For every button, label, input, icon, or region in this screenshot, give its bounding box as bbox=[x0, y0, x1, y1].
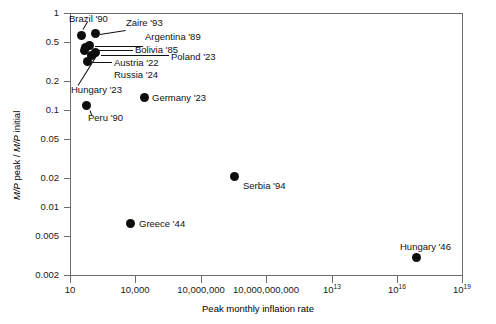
point-label-serbia: Serbia '94 bbox=[243, 180, 285, 191]
data-point-hungary46 bbox=[412, 253, 421, 262]
x-tick bbox=[135, 276, 136, 283]
x-tick-label: 1016 bbox=[367, 285, 427, 295]
y-tick bbox=[64, 42, 71, 43]
y-tick-label: 0.005 bbox=[14, 231, 59, 241]
point-label-zaire: Zaire '93 bbox=[126, 17, 163, 28]
data-point-austria bbox=[83, 57, 92, 66]
scatter-chart: 1 0.5 0.2 0.1 0.05 0.02 0.01 0.005 0.002… bbox=[0, 0, 496, 324]
y-tick-label: 0.002 bbox=[14, 270, 59, 280]
y-tick-label: 0.5 bbox=[14, 37, 59, 47]
leader-line-bolivia bbox=[95, 50, 133, 51]
data-point-zaire bbox=[91, 29, 100, 38]
y-axis-title-part2: peak / bbox=[11, 152, 22, 183]
axis-top bbox=[70, 13, 463, 14]
x-axis-title: Peak monthly inflation rate bbox=[10, 303, 496, 314]
y-axis-title-part4: initial bbox=[11, 111, 22, 135]
y-tick bbox=[64, 81, 71, 82]
y-tick bbox=[64, 207, 71, 208]
x-tick-label: 10 bbox=[40, 285, 100, 295]
y-tick-label: 1 bbox=[14, 8, 59, 18]
y-axis-title-part1: M/P bbox=[11, 183, 22, 200]
axis-right bbox=[462, 13, 463, 276]
x-tick-mantissa: 10 bbox=[453, 284, 464, 295]
x-tick bbox=[70, 276, 71, 283]
data-point-greece bbox=[126, 219, 135, 228]
data-point-brazil bbox=[77, 31, 86, 40]
data-point-germany bbox=[140, 93, 149, 102]
y-tick-label: 0.2 bbox=[14, 76, 59, 86]
data-point-serbia bbox=[230, 172, 239, 181]
point-label-hungary46: Hungary '46 bbox=[400, 241, 451, 252]
y-axis-title-part3: M/P bbox=[11, 135, 22, 152]
y-tick bbox=[64, 139, 71, 140]
x-tick bbox=[201, 276, 202, 283]
y-tick-label: 0.01 bbox=[14, 202, 59, 212]
x-tick-label: 1013 bbox=[302, 285, 362, 295]
y-tick bbox=[64, 178, 71, 179]
x-tick-mantissa: 10 bbox=[323, 284, 334, 295]
x-tick-exponent: 19 bbox=[464, 283, 471, 290]
point-label-hungary23: Hungary '23 bbox=[71, 84, 122, 95]
point-label-austria: Austria '22 bbox=[114, 57, 159, 68]
x-tick-mantissa: 10 bbox=[388, 284, 399, 295]
y-tick bbox=[64, 236, 71, 237]
x-tick-exponent: 13 bbox=[334, 283, 341, 290]
data-point-peru bbox=[82, 101, 91, 110]
point-label-greece: Greece '44 bbox=[139, 218, 185, 229]
point-label-brazil: Brazil '90 bbox=[69, 13, 108, 24]
leader-line-zaire bbox=[100, 30, 126, 35]
point-label-germany: Germany '23 bbox=[152, 92, 206, 103]
leader-line-poland bbox=[101, 55, 169, 56]
x-tick bbox=[266, 276, 267, 283]
x-tick-label: 1019 bbox=[432, 285, 492, 295]
point-label-peru: Peru '90 bbox=[88, 112, 123, 123]
point-label-russia: Russia '24 bbox=[114, 69, 158, 80]
point-label-argentina: Argentina '89 bbox=[145, 31, 201, 42]
x-tick-exponent: 16 bbox=[399, 283, 406, 290]
point-label-poland: Poland '23 bbox=[171, 51, 216, 62]
y-tick bbox=[64, 110, 71, 111]
leader-line-austria bbox=[93, 62, 112, 63]
y-axis-title: M/P peak / M/P initial bbox=[11, 111, 22, 200]
